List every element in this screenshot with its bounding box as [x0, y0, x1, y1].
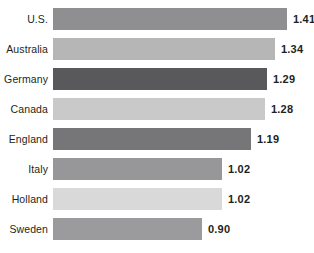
- bar-row: England1.19: [0, 128, 314, 150]
- category-label: Sweden: [0, 218, 48, 240]
- value-label: 0.90: [208, 218, 230, 240]
- bar: [53, 68, 267, 90]
- bar-row: Canada1.28: [0, 98, 314, 120]
- category-label: U.S.: [0, 8, 48, 30]
- value-label: 1.41: [293, 8, 314, 30]
- bar: [53, 218, 202, 240]
- bar: [53, 128, 251, 150]
- bar-row: Italy1.02: [0, 158, 314, 180]
- value-label: 1.28: [271, 98, 293, 120]
- category-label: Australia: [0, 38, 48, 60]
- value-label: 1.34: [281, 38, 303, 60]
- category-label: Holland: [0, 188, 48, 210]
- bar-row: U.S.1.41: [0, 8, 314, 30]
- category-label: Italy: [0, 158, 48, 180]
- bar: [53, 8, 287, 30]
- bar-row: Sweden0.90: [0, 218, 314, 240]
- value-label: 1.19: [257, 128, 279, 150]
- bar: [53, 158, 222, 180]
- bar: [53, 98, 265, 120]
- bar: [53, 188, 222, 210]
- value-label: 1.29: [273, 68, 295, 90]
- bar-row: Germany1.29: [0, 68, 314, 90]
- category-label: Germany: [0, 68, 48, 90]
- bar: [53, 38, 275, 60]
- value-label: 1.02: [228, 158, 250, 180]
- bar-row: Holland1.02: [0, 188, 314, 210]
- category-label: England: [0, 128, 48, 150]
- bar-chart: U.S.1.41Australia1.34Germany1.29Canada1.…: [0, 0, 314, 253]
- category-label: Canada: [0, 98, 48, 120]
- value-label: 1.02: [228, 188, 250, 210]
- bar-row: Australia1.34: [0, 38, 314, 60]
